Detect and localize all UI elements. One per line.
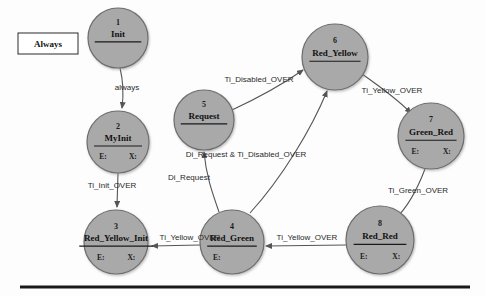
states-layer: 1Init2MyInitE:X:3Red_Yellow_InitE:X:4Red…	[79, 8, 464, 274]
always-box[interactable]: Always	[18, 33, 78, 54]
transition-edge-2-to-3[interactable]	[117, 173, 118, 207]
transition-label-t8: Ti_Green_OVER	[388, 186, 448, 195]
state-number: 7	[429, 115, 433, 124]
transition-label-t6: Di_Request & Ti_Disabled_OVER	[186, 150, 307, 159]
state-machine-diagram: 1Init2MyInitE:X:3Red_Yellow_InitE:X:4Red…	[0, 0, 486, 296]
state-entry-label: E:	[213, 253, 221, 262]
state-number: 3	[114, 222, 118, 231]
state-exit-label: X:	[127, 253, 135, 262]
transition-label-t4: Di_Request	[168, 173, 211, 182]
transition-label-t1: always	[115, 83, 139, 92]
state-node-red_red[interactable]: 8Red_RedE:X:	[346, 206, 414, 274]
state-number: 5	[202, 100, 206, 109]
state-entry-label: E:	[360, 252, 368, 261]
state-name-label: Request	[189, 111, 220, 121]
transition-label-t3: Ti_Yellow_OVER	[160, 233, 221, 242]
transition-label-t9: Ti_Yellow_OVER	[277, 233, 338, 242]
state-name-label: Init	[111, 29, 125, 39]
state-exit-label: X:	[392, 252, 400, 261]
transition-label-t7: Ti_Yellow_OVER	[362, 86, 423, 95]
state-exit-label: X:	[443, 147, 451, 156]
state-number: 4	[230, 222, 234, 231]
state-name-label: MyInit	[105, 133, 132, 143]
state-node-red_green[interactable]: 4Red_GreenE:	[200, 210, 264, 274]
state-number: 6	[333, 36, 337, 45]
transition-edge-4-to-3[interactable]	[152, 245, 200, 246]
state-name-label: Green_Red	[409, 127, 453, 137]
transition-edge-8-to-4[interactable]	[266, 245, 346, 246]
state-number: 8	[378, 219, 382, 228]
state-name-label: Red_Red	[362, 231, 398, 241]
state-entry-label: E:	[97, 253, 105, 262]
state-node-init[interactable]: 1Init	[88, 8, 148, 68]
state-node-red_yellow[interactable]: 6Red_Yellow	[302, 24, 368, 90]
state-node-request[interactable]: 5Request	[174, 90, 234, 150]
diagram-canvas: 1Init2MyInitE:X:3Red_Yellow_InitE:X:4Red…	[0, 0, 486, 296]
state-number: 1	[116, 18, 120, 27]
state-node-green_red[interactable]: 7Green_RedE:X:	[398, 103, 464, 169]
state-entry-label: E:	[99, 152, 107, 161]
state-exit-label: X:	[129, 152, 137, 161]
state-number: 2	[116, 122, 120, 131]
transition-label-t5: Ti_Disabled_OVER	[224, 75, 293, 84]
state-name-label: Red_Yellow_Init	[84, 233, 148, 243]
state-name-label: Red_Yellow	[312, 48, 358, 58]
always-box-label: Always	[34, 39, 62, 49]
transition-label-t2: Ti_Init_OVER	[88, 181, 137, 190]
transition-edge-4-to-5[interactable]	[204, 152, 219, 212]
state-node-red_yellow_init[interactable]: 3Red_Yellow_InitE:X:	[79, 210, 153, 274]
state-entry-label: E:	[411, 147, 419, 156]
state-node-myinit[interactable]: 2MyInitE:X:	[87, 111, 149, 173]
